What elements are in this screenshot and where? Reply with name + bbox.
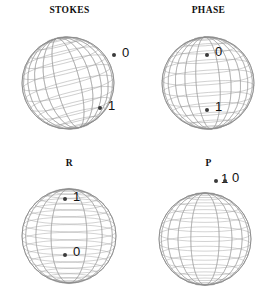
state-marker-label-phase-0: 0 bbox=[215, 45, 222, 58]
sphere-wireframe-stokes bbox=[0, 0, 139, 153]
state-marker-label-p-0: 0 bbox=[232, 171, 239, 184]
state-marker-label-phase-1: 1 bbox=[215, 100, 222, 113]
bloch-sphere-phase: 01 bbox=[139, 0, 278, 153]
sphere-wireframe-phase bbox=[139, 0, 278, 153]
bloch-sphere-r: 10 bbox=[0, 153, 139, 306]
bloch-sphere-figure: STOKES01PHASE01R10P10 bbox=[0, 0, 278, 306]
sphere-panel-p: P10 bbox=[139, 153, 278, 306]
state-marker-label-r-1: 1 bbox=[73, 190, 80, 203]
sphere-panel-r: R10 bbox=[0, 153, 139, 306]
sphere-panel-phase: PHASE01 bbox=[139, 0, 278, 153]
state-marker-label-r-0: 0 bbox=[73, 245, 80, 258]
sphere-wireframe-p bbox=[139, 153, 278, 306]
sphere-wireframe-r bbox=[0, 153, 139, 306]
bloch-sphere-stokes: 01 bbox=[0, 0, 139, 153]
sphere-panel-stokes: STOKES01 bbox=[0, 0, 139, 153]
state-marker-label-stokes-1: 1 bbox=[108, 99, 115, 112]
state-marker-label-stokes-0: 0 bbox=[122, 46, 129, 59]
bloch-sphere-p: 10 bbox=[139, 153, 278, 306]
